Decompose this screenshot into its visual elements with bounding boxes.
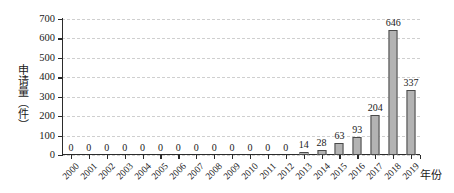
bar-slot: 337 <box>402 19 420 155</box>
bar-value-label: 0 <box>86 143 91 153</box>
x-tick-label: 2002 <box>96 161 117 182</box>
bar-value-label: 646 <box>386 18 401 28</box>
x-tick-label: 2000 <box>61 161 82 182</box>
bar-slot: 0 <box>62 19 80 155</box>
bar-value-label: 0 <box>212 143 217 153</box>
bar-value-label: 0 <box>230 143 235 153</box>
bar-slot: 0 <box>80 19 98 155</box>
x-tick-label: 2006 <box>168 161 189 182</box>
y-tick-label: 100 <box>39 130 55 141</box>
x-tick-label: 2007 <box>186 161 207 182</box>
x-tick-label: 2010 <box>240 161 261 182</box>
bar-slot: 0 <box>223 19 241 155</box>
y-tick-label: 200 <box>39 111 55 122</box>
x-tick-label: 2008 <box>204 161 225 182</box>
x-tick-mark <box>178 155 179 159</box>
x-tick-mark <box>214 155 215 159</box>
y-tick-label: 600 <box>39 33 55 44</box>
bar-slot: 93 <box>348 19 366 155</box>
bar-slot: 14 <box>295 19 313 155</box>
bar-slot: 0 <box>152 19 170 155</box>
bar-slot: 204 <box>366 19 384 155</box>
x-tick-mark <box>89 155 90 159</box>
x-tick-mark <box>357 155 358 159</box>
x-tick-label: 2009 <box>222 161 243 182</box>
bar-value-label: 0 <box>140 143 145 153</box>
bar-value-label: 0 <box>158 143 163 153</box>
x-tick-label: 2014 <box>311 161 332 182</box>
y-tick-label: 500 <box>39 53 55 64</box>
bar-slot: 0 <box>116 19 134 155</box>
bar-value-label: 0 <box>104 143 109 153</box>
x-tick-mark <box>420 155 421 159</box>
x-tick-mark <box>322 155 323 159</box>
x-axis-title: 年份 <box>420 170 442 181</box>
bar-slot: 0 <box>134 19 152 155</box>
x-tick-mark <box>411 155 412 159</box>
x-tick-mark <box>107 155 108 159</box>
x-tick-label: 2001 <box>78 161 99 182</box>
bar-value-label: 204 <box>368 103 383 113</box>
bar <box>407 90 416 155</box>
bar-value-label: 0 <box>68 143 73 153</box>
bar-value-label: 63 <box>334 131 344 141</box>
x-tick-mark <box>125 155 126 159</box>
x-tick-label: 2017 <box>365 161 386 182</box>
bar-slot: 0 <box>259 19 277 155</box>
x-tick-mark <box>160 155 161 159</box>
x-tick-mark <box>375 155 376 159</box>
bar-value-label: 337 <box>404 78 419 88</box>
x-tick-mark <box>268 155 269 159</box>
bar-value-label: 0 <box>265 143 270 153</box>
x-tick-mark <box>232 155 233 159</box>
y-axis-title: 申请量（件） <box>6 38 28 156</box>
x-tick-label: 2012 <box>275 161 296 182</box>
bar-slot: 0 <box>98 19 116 155</box>
x-tick-label: 2018 <box>383 161 404 182</box>
bar-value-label: 0 <box>122 143 127 153</box>
plot-area: 0100200300400500600700 00000000000001428… <box>62 19 420 155</box>
bar-value-label: 14 <box>299 140 309 150</box>
y-tick-label: 0 <box>50 150 55 161</box>
bar <box>335 143 344 155</box>
x-tick-label: 2005 <box>150 161 171 182</box>
y-tick-label: 700 <box>39 14 55 25</box>
bar <box>371 115 380 155</box>
bar-value-label: 0 <box>176 143 181 153</box>
x-tick-label: 2004 <box>132 161 153 182</box>
x-tick-label: 2003 <box>114 161 135 182</box>
x-tick-label: 2016 <box>347 161 368 182</box>
x-tick-mark <box>250 155 251 159</box>
bar <box>389 30 398 156</box>
bar-slot: 28 <box>313 19 331 155</box>
bar-value-label: 0 <box>194 143 199 153</box>
bar-slot: 646 <box>384 19 402 155</box>
y-tick-label: 300 <box>39 91 55 102</box>
bar-value-label: 93 <box>352 125 362 135</box>
x-tick-mark <box>339 155 340 159</box>
bar-slot: 0 <box>187 19 205 155</box>
x-tick-mark <box>143 155 144 159</box>
x-tick-label: 2015 <box>329 161 350 182</box>
bar-chart-figure: 申请量（件） 0100200300400500600700 0000000000… <box>0 0 454 193</box>
bar-value-label: 0 <box>247 143 252 153</box>
x-tick-mark <box>286 155 287 159</box>
bar-series: 000000000000014286393204646337 <box>62 19 420 155</box>
bar-slot: 0 <box>241 19 259 155</box>
x-tick-mark <box>71 155 72 159</box>
x-tick-label: 2013 <box>293 161 314 182</box>
bar-value-label: 28 <box>317 138 327 148</box>
x-tick-label: 2019 <box>401 161 422 182</box>
x-tick-mark <box>304 155 305 159</box>
x-tick-label: 2011 <box>258 161 278 181</box>
bar-slot: 0 <box>205 19 223 155</box>
y-tick-label: 400 <box>39 72 55 83</box>
x-tick-mark <box>196 155 197 159</box>
bar-slot: 0 <box>277 19 295 155</box>
bar-value-label: 0 <box>283 143 288 153</box>
bar <box>353 137 362 155</box>
x-tick-mark <box>393 155 394 159</box>
bar-slot: 63 <box>331 19 349 155</box>
bar-slot: 0 <box>169 19 187 155</box>
x-axis-ticks: 2000200120022003200420052006200720082009… <box>62 155 420 193</box>
